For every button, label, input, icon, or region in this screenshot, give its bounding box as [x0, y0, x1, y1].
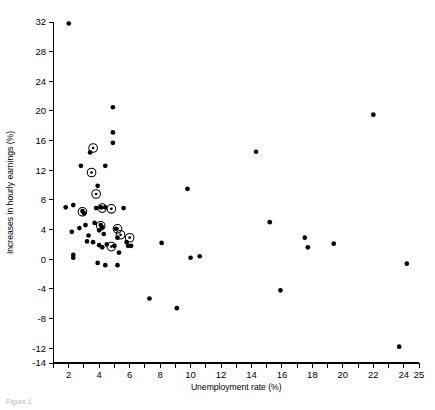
data-point-highlighted: [101, 207, 104, 210]
y-tick-label: 4: [41, 224, 46, 235]
data-point: [103, 263, 108, 268]
x-tick-label: 16: [277, 369, 288, 380]
data-point-highlighted: [128, 236, 131, 239]
data-point: [331, 241, 336, 246]
x-tick-label: 6: [127, 369, 132, 380]
data-point: [91, 240, 96, 245]
data-point: [111, 130, 116, 135]
data-point: [71, 203, 76, 208]
data-point: [397, 344, 402, 349]
data-point-highlighted: [81, 210, 84, 213]
data-point: [95, 183, 100, 188]
x-tick-label: 25: [414, 369, 425, 380]
x-tick-label: 14: [246, 369, 257, 380]
x-tick-label: 22: [368, 369, 379, 380]
figure-caption: Figure 1: [6, 398, 426, 410]
data-point: [111, 105, 116, 110]
data-point: [86, 233, 91, 238]
y-tick-label: -12: [32, 343, 46, 354]
data-point: [129, 244, 134, 249]
data-point: [197, 254, 202, 259]
data-point-highlighted: [119, 233, 122, 236]
data-point: [121, 206, 126, 211]
data-point: [404, 261, 409, 266]
data-point: [278, 288, 283, 293]
data-point: [95, 261, 100, 266]
data-point: [267, 220, 272, 225]
data-point: [69, 229, 74, 234]
x-tick-label: 20: [338, 369, 349, 380]
y-axis-title: Increases in hourly earnings (%): [5, 131, 15, 254]
data-point-highlighted: [92, 147, 95, 150]
data-point: [100, 245, 105, 250]
data-point: [302, 235, 307, 240]
data-point: [371, 112, 376, 117]
data-point: [77, 226, 82, 231]
y-tick-label: -14: [32, 357, 46, 368]
data-point: [117, 250, 122, 255]
data-point: [188, 255, 193, 260]
y-tick-label: 0: [41, 254, 46, 265]
y-tick-label: 16: [35, 135, 46, 146]
x-axis-title: Unemployment rate (%): [191, 382, 282, 392]
data-point: [175, 306, 180, 311]
y-tick-label: 20: [35, 105, 46, 116]
y-tick-label: 24: [35, 76, 46, 87]
data-point-highlighted: [95, 193, 98, 196]
scatter-plot: 2468101214161820222425-14-12-8-404812162…: [0, 0, 435, 410]
data-point: [71, 255, 76, 260]
data-point: [85, 239, 90, 244]
y-tick-label: -8: [38, 313, 46, 324]
x-tick-label: 10: [185, 369, 196, 380]
data-point: [79, 163, 84, 168]
data-point: [83, 223, 88, 228]
x-tick-label: 24: [398, 369, 409, 380]
x-tick-label: 4: [97, 369, 102, 380]
y-tick-label: 12: [35, 165, 46, 176]
data-point: [147, 296, 152, 301]
data-point: [254, 149, 259, 154]
x-tick-label: 12: [216, 369, 227, 380]
data-point: [63, 205, 68, 210]
y-tick-label: 28: [35, 46, 46, 57]
y-tick-label: -4: [38, 283, 46, 294]
axis-spines: [54, 22, 420, 363]
y-tick-label: 8: [41, 194, 46, 205]
x-tick-label: 2: [66, 369, 71, 380]
data-point: [101, 232, 106, 237]
data-point: [115, 263, 120, 268]
x-tick-label: 8: [157, 369, 162, 380]
data-point: [66, 21, 71, 26]
data-point-highlighted: [99, 225, 102, 228]
x-tick-label: 18: [307, 369, 318, 380]
data-point: [111, 140, 116, 145]
data-point: [185, 186, 190, 191]
y-tick-label: 32: [35, 16, 46, 27]
data-point-highlighted: [110, 207, 113, 210]
data-point: [159, 241, 164, 246]
data-point: [103, 163, 108, 168]
data-point-highlighted: [110, 245, 113, 248]
data-point-highlighted: [116, 227, 119, 230]
data-point: [305, 245, 310, 250]
figure-container: 2468101214161820222425-14-12-8-404812162…: [0, 0, 435, 410]
data-point-highlighted: [90, 171, 93, 174]
